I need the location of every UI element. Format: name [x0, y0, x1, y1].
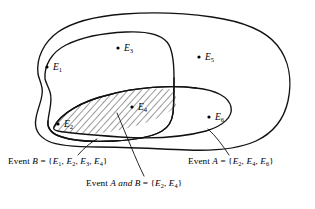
caption-event-a-text: Event A = {E2, E4, E6}: [188, 156, 274, 166]
caption-layer: Event B = {E1, E2, E3, E4} Event A = {E2…: [0, 0, 315, 209]
caption-event-a-and-b-text: Event A and B = {E2, E4}: [86, 178, 182, 188]
venn-diagram-figure: E1 E2 E3 E4 E5 E6: [0, 0, 315, 209]
caption-event-a: Event A = {E2, E4, E6}: [188, 157, 274, 166]
caption-event-a-and-b: Event A and B = {E2, E4}: [86, 179, 182, 188]
caption-event-b-text: Event B = {E1, E2, E3, E4}: [8, 156, 107, 166]
caption-event-b: Event B = {E1, E2, E3, E4}: [8, 157, 107, 166]
